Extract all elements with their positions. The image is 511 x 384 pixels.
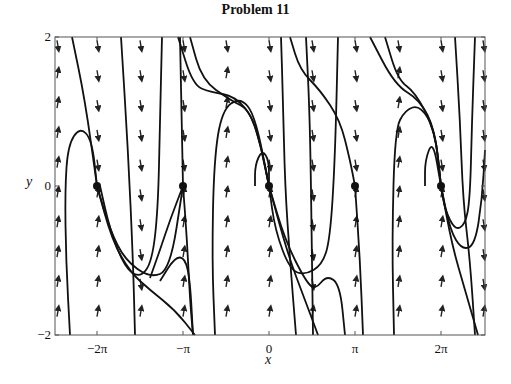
direction-arrow-icon — [183, 278, 185, 287]
trajectory-curve — [269, 186, 345, 335]
direction-arrow-icon — [57, 278, 59, 287]
y-tick-label: 0 — [20, 178, 51, 194]
direction-arrow-icon — [183, 248, 185, 257]
x-tick-label: π — [345, 341, 365, 357]
direction-arrow-icon — [269, 248, 271, 257]
equilibrium-point — [437, 182, 445, 190]
direction-arrow-icon — [269, 308, 271, 317]
direction-arrow-icon — [441, 248, 443, 257]
direction-arrow-icon — [97, 278, 99, 287]
direction-arrow-icon — [269, 40, 271, 49]
phase-portrait-plot — [0, 0, 511, 384]
direction-arrow-icon — [226, 69, 228, 78]
direction-arrow-icon — [226, 218, 228, 227]
direction-arrow-icon — [183, 130, 185, 139]
direction-arrow-icon — [97, 248, 99, 257]
direction-arrow-icon — [226, 129, 228, 138]
equilibrium-points — [93, 182, 445, 190]
equilibrium-point — [179, 182, 187, 190]
direction-arrow-icon — [97, 40, 99, 49]
direction-field — [57, 40, 485, 316]
direction-arrow-icon — [140, 130, 142, 139]
direction-arrow-icon — [398, 159, 400, 168]
direction-arrow-icon — [57, 218, 59, 227]
direction-arrow-icon — [140, 308, 142, 317]
direction-arrow-icon — [441, 40, 443, 49]
trajectory-curve — [180, 37, 183, 186]
direction-arrow-icon — [483, 219, 485, 228]
direction-arrow-icon — [269, 278, 271, 287]
direction-arrow-icon — [57, 159, 59, 168]
direction-arrow-icon — [312, 189, 314, 198]
direction-arrow-icon — [140, 40, 142, 49]
trajectory-curve — [100, 37, 162, 275]
direction-arrow-icon — [312, 70, 314, 79]
direction-arrow-icon — [140, 189, 142, 198]
direction-arrow-icon — [312, 130, 314, 139]
direction-arrow-icon — [441, 130, 443, 139]
direction-arrow-icon — [398, 40, 400, 49]
direction-arrow-icon — [398, 278, 400, 287]
trajectory-curve — [72, 37, 97, 186]
direction-arrow-icon — [97, 308, 99, 317]
trajectories — [65, 37, 485, 335]
direction-arrow-icon — [398, 129, 400, 138]
direction-arrow-icon — [483, 70, 485, 79]
direction-arrow-icon — [140, 70, 142, 79]
direction-arrow-icon — [140, 160, 142, 169]
direction-arrow-icon — [441, 160, 443, 169]
trajectory-curve — [121, 37, 135, 335]
trajectory-curve — [441, 37, 475, 228]
direction-arrow-icon — [441, 218, 443, 227]
direction-arrow-icon — [57, 129, 59, 138]
trajectory-curve — [290, 37, 355, 186]
y-tick-label: −2 — [20, 327, 51, 343]
x-tick-label: −π — [173, 341, 193, 357]
direction-arrow-icon — [97, 218, 99, 227]
direction-arrow-icon — [183, 40, 185, 49]
direction-arrow-icon — [483, 308, 485, 317]
direction-arrow-icon — [226, 278, 228, 287]
direction-arrow-icon — [441, 278, 443, 287]
equilibrium-point — [93, 182, 101, 190]
x-axis-label: x — [265, 352, 271, 368]
trajectory-curve — [393, 107, 441, 335]
direction-arrow-icon — [355, 308, 357, 317]
direction-arrow-icon — [398, 248, 400, 257]
direction-arrow-icon — [226, 188, 228, 197]
direction-arrow-icon — [269, 218, 271, 227]
direction-arrow-icon — [441, 100, 443, 109]
direction-arrow-icon — [355, 218, 357, 227]
direction-arrow-icon — [140, 249, 142, 258]
direction-arrow-icon — [97, 100, 99, 109]
trajectory-curve — [281, 37, 296, 335]
direction-arrow-icon — [140, 219, 142, 228]
direction-arrow-icon — [441, 70, 443, 79]
trajectory-curve — [213, 101, 269, 335]
direction-arrow-icon — [57, 248, 59, 257]
equilibrium-point — [351, 182, 359, 190]
direction-arrow-icon — [441, 308, 443, 317]
trajectory-curve — [65, 131, 97, 335]
direction-arrow-icon — [183, 100, 185, 109]
y-axis-label: y — [26, 174, 32, 190]
direction-arrow-icon — [226, 248, 228, 257]
direction-arrow-icon — [57, 69, 59, 78]
direction-arrow-icon — [355, 40, 357, 49]
direction-arrow-icon — [57, 188, 59, 197]
x-tick-label: 2π — [431, 341, 451, 357]
x-tick-label: −2π — [87, 341, 107, 357]
direction-arrow-icon — [355, 130, 357, 139]
equilibrium-point — [265, 182, 273, 190]
direction-arrow-icon — [269, 70, 271, 79]
trajectory-curve — [441, 186, 478, 335]
direction-arrow-icon — [355, 160, 357, 169]
y-tick-label: 2 — [20, 29, 51, 45]
direction-arrow-icon — [483, 249, 485, 258]
direction-arrow-icon — [483, 279, 485, 288]
direction-arrow-icon — [57, 40, 59, 49]
direction-arrow-icon — [483, 40, 485, 49]
direction-arrow-icon — [183, 218, 185, 227]
direction-arrow-icon — [97, 160, 99, 169]
direction-arrow-icon — [97, 70, 99, 79]
